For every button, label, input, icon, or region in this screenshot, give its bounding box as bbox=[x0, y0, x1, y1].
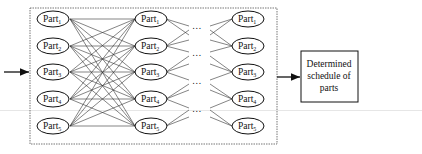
node-part-5: Part5 bbox=[135, 118, 167, 134]
node-part-2: Part2 bbox=[232, 38, 264, 54]
column-3: Part1 Part2 Part3 Part4 Part5 bbox=[232, 11, 264, 134]
svg-text:…: … bbox=[192, 104, 202, 114]
node-part-4: Part4 bbox=[37, 91, 69, 107]
node-part-1: Part1 bbox=[37, 11, 69, 27]
output-line-1: Determined bbox=[307, 58, 352, 70]
edges-col1-col2 bbox=[70, 19, 135, 126]
node-part-3: Part3 bbox=[232, 64, 264, 80]
node-part-5: Part5 bbox=[37, 118, 69, 134]
network-diagram: … … … … Part1 Part2 Part3 Part4 Part5 Pa… bbox=[0, 0, 422, 154]
ellipsis-column: … … … … bbox=[192, 21, 202, 114]
column-1: Part1 Part2 Part3 Part4 Part5 bbox=[37, 11, 69, 134]
output-line-3: parts bbox=[320, 82, 338, 94]
edges-col3-in bbox=[210, 19, 232, 126]
node-part-4: Part4 bbox=[135, 91, 167, 107]
svg-text:…: … bbox=[192, 76, 202, 86]
output-box-label: Determined schedule of parts bbox=[301, 51, 357, 101]
svg-text:…: … bbox=[192, 21, 202, 31]
column-2: Part1 Part2 Part3 Part4 Part5 bbox=[135, 11, 167, 134]
svg-text:…: … bbox=[192, 48, 202, 58]
node-part-1: Part1 bbox=[135, 11, 167, 27]
node-part-3: Part3 bbox=[37, 64, 69, 80]
node-part-4: Part4 bbox=[232, 91, 264, 107]
edges-col2-out bbox=[166, 19, 189, 126]
node-part-1: Part1 bbox=[232, 11, 264, 27]
node-part-2: Part2 bbox=[135, 38, 167, 54]
node-part-2: Part2 bbox=[37, 38, 69, 54]
output-line-2: schedule of bbox=[307, 70, 351, 82]
node-part-3: Part3 bbox=[135, 64, 167, 80]
node-part-5: Part5 bbox=[232, 118, 264, 134]
